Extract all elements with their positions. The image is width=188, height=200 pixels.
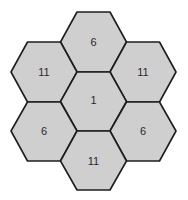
- cell-label: 6: [140, 125, 146, 137]
- cell-label: 6: [90, 36, 96, 48]
- cell-label: 11: [38, 66, 49, 78]
- cell-label: 6: [41, 125, 47, 137]
- cell-label: 11: [88, 155, 99, 167]
- hexagon-diagram: 6 11 11 1 6 6 11: [0, 0, 188, 200]
- cell-label: 11: [137, 66, 148, 78]
- cell-label: 1: [90, 94, 96, 106]
- hexagon-svg: 6 11 11 1 6 6 11: [0, 0, 188, 200]
